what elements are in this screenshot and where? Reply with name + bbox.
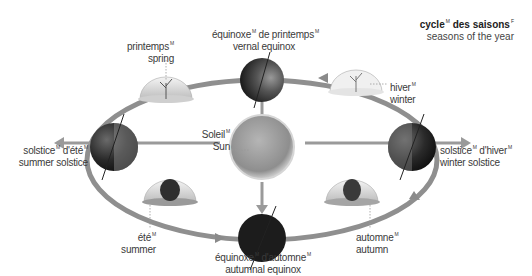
label-winter-solstice: solsticeM d'hiverM winter solstice (440, 141, 512, 169)
dome-summer (142, 179, 198, 206)
label-autumnal-equinox: équinoxeM d'automneM autumnal equinox (208, 248, 318, 276)
label-summer: étéM summer (110, 228, 156, 256)
title-fr: cycle (420, 19, 445, 30)
dome-spring (138, 77, 194, 103)
earth-winter-solstice (388, 114, 436, 180)
gender-marker: F (511, 18, 514, 24)
earth-vernal-equinox (240, 52, 284, 108)
earth-summer-solstice (90, 114, 138, 180)
diagram-title: cycleM des saisonsF seasons of the year (420, 15, 514, 43)
label-vernal-equinox: équinoxeM de printempsM vernal equinox (212, 25, 316, 53)
dome-autumn (324, 179, 380, 206)
orbit-arrow-icon (215, 233, 225, 243)
title-fr2: des saisons (453, 19, 510, 30)
label-spring: printempsM spring (110, 37, 174, 65)
label-sun: SoleilM Sun (200, 125, 230, 153)
title-en: seasons of the year (420, 31, 514, 43)
label-winter: hiverM winter (390, 78, 416, 106)
sun-icon (230, 115, 294, 179)
gender-marker: M (446, 18, 450, 24)
orbit-arrow-icon (318, 73, 328, 83)
label-autumn: automneM autumn (356, 228, 399, 256)
label-summer-solstice: solsticeM d'étéM summer solstice (6, 141, 88, 169)
dome-winter (328, 70, 384, 96)
